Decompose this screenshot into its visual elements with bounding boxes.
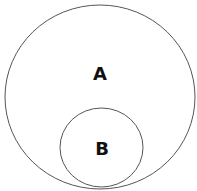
venn-diagram: A B [0,0,197,191]
set-b-label: B [95,138,109,159]
set-a-circle [5,5,195,189]
set-a-label: A [93,63,107,84]
